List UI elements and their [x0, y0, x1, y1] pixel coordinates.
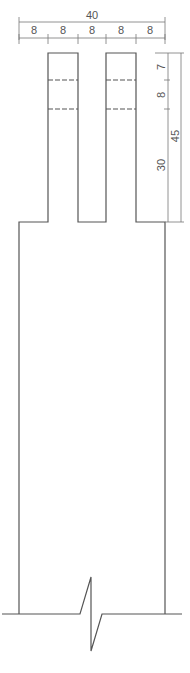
segment-width-dimensions: 8 8 8 8 8	[19, 24, 165, 44]
overall-width-label: 40	[86, 9, 98, 21]
height-label-8: 8	[155, 92, 167, 98]
break-line-icon	[2, 577, 182, 651]
segment-label-3: 8	[89, 24, 95, 36]
segment-label-1: 8	[31, 24, 37, 36]
height-label-45: 45	[169, 130, 181, 142]
part-outline	[19, 53, 165, 614]
segment-label-5: 8	[147, 24, 153, 36]
segment-label-4: 8	[118, 24, 124, 36]
finger-joint-drawing: 40 8 8 8 8 8 7 8 30 45	[0, 0, 190, 673]
segment-label-2: 8	[60, 24, 66, 36]
height-label-7: 7	[155, 64, 167, 70]
height-label-30: 30	[155, 159, 167, 171]
height-dimensions: 7 8 30 45	[155, 53, 184, 222]
hidden-lines	[48, 80, 136, 109]
